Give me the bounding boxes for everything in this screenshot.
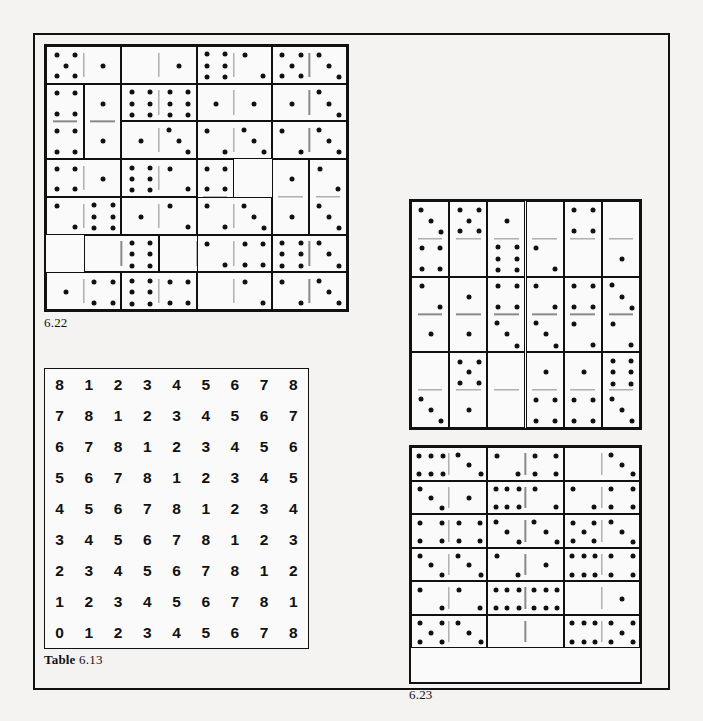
pip [455, 553, 460, 558]
domino-0-0[interactable] [487, 615, 563, 649]
pip [440, 506, 445, 511]
pip [92, 279, 97, 284]
domino-3-3[interactable] [411, 548, 487, 582]
domino-5-3[interactable] [411, 615, 487, 649]
domino-0-1[interactable] [564, 581, 640, 615]
pip [581, 370, 586, 375]
domino-1-4[interactable] [526, 352, 564, 428]
domino-6-3[interactable] [411, 447, 487, 481]
domino-0-3[interactable] [411, 352, 449, 428]
domino-2-1[interactable] [487, 548, 563, 582]
domino-0-1[interactable] [602, 201, 640, 277]
domino-1-1[interactable] [197, 84, 272, 122]
pip [609, 572, 614, 577]
domino-2-4[interactable] [487, 447, 563, 481]
domino-6-4[interactable] [564, 548, 640, 582]
domino-1-3[interactable] [121, 121, 196, 159]
domino-1-4[interactable] [46, 272, 121, 310]
domino-6-2[interactable] [121, 159, 196, 197]
domino-4-2[interactable] [564, 277, 602, 353]
pip [591, 229, 596, 234]
domino-2-1[interactable] [411, 277, 449, 353]
domino-0-3[interactable] [564, 447, 640, 481]
domino-2-3[interactable] [309, 159, 347, 234]
domino-divider [525, 487, 526, 508]
domino-half-4 [529, 451, 562, 480]
domino-grid-6-23[interactable] [409, 445, 642, 684]
pip [336, 301, 341, 306]
pip [554, 471, 559, 476]
domino-5-3[interactable] [564, 514, 640, 548]
domino-2-3[interactable] [197, 197, 272, 235]
domino-half-4 [50, 163, 83, 196]
domino-2-4[interactable] [564, 481, 640, 515]
domino-half-4 [567, 280, 600, 313]
domino-4-3[interactable] [487, 277, 525, 353]
domino-divider [449, 587, 450, 608]
domino-6-2[interactable] [197, 46, 272, 84]
domino-half-0 [567, 585, 600, 614]
domino-4-0[interactable] [564, 201, 602, 277]
domino-4-1[interactable] [46, 159, 121, 197]
domino-5-1[interactable] [449, 352, 487, 428]
domino-2-6[interactable] [46, 197, 121, 235]
domino-3-1[interactable] [411, 481, 487, 515]
domino-6-6[interactable] [487, 581, 563, 615]
domino-0-2[interactable] [526, 201, 564, 277]
pip [610, 321, 615, 326]
domino-5-1[interactable] [46, 46, 121, 84]
domino-6-6[interactable] [121, 84, 196, 122]
domino-1-2[interactable] [121, 197, 196, 235]
pip [148, 252, 153, 257]
pip [570, 639, 575, 644]
domino-3-3[interactable] [487, 514, 563, 548]
domino-half-1 [453, 394, 486, 427]
domino-5-0[interactable] [449, 201, 487, 277]
pip [223, 75, 228, 80]
domino-4-4[interactable] [411, 514, 487, 548]
table-cell-r0-c5: 5 [191, 369, 220, 400]
domino-half-3 [313, 200, 346, 233]
domino-0-0[interactable] [487, 352, 525, 428]
table-cell-r3-c0: 5 [45, 462, 74, 493]
domino-0-6[interactable] [84, 235, 159, 273]
domino-half-1 [275, 163, 308, 196]
domino-divider [570, 390, 595, 391]
domino-6-3[interactable] [602, 352, 640, 428]
domino-4-4[interactable] [46, 84, 84, 159]
domino-3-4[interactable] [411, 201, 449, 277]
table-cell-r4-c8: 4 [279, 493, 308, 524]
domino-1-1[interactable] [272, 159, 310, 234]
pip [280, 263, 285, 268]
domino-grid-6-23-top[interactable] [409, 199, 642, 430]
domino-2-3[interactable] [526, 277, 564, 353]
pip [493, 606, 498, 611]
domino-6-5[interactable] [564, 615, 640, 649]
pip [440, 453, 445, 458]
domino-half-1 [87, 87, 120, 120]
domino-5-3[interactable] [272, 46, 347, 84]
domino-0-2[interactable] [197, 272, 272, 310]
domino-3-2[interactable] [602, 277, 640, 353]
domino-2-3[interactable] [272, 121, 347, 159]
pip [139, 139, 144, 144]
domino-2-3[interactable] [272, 272, 347, 310]
pip [167, 204, 172, 209]
domino-6-2[interactable] [487, 481, 563, 515]
domino-6-4[interactable] [121, 272, 196, 310]
domino-1-3[interactable] [272, 84, 347, 122]
domino-grid-6-22[interactable] [44, 44, 349, 312]
pip [185, 187, 190, 192]
pip [493, 505, 498, 510]
domino-1-4[interactable] [564, 352, 602, 428]
domino-2-4[interactable] [197, 235, 272, 273]
domino-1-1[interactable] [84, 84, 122, 159]
domino-6-3[interactable] [272, 235, 347, 273]
domino-2-3[interactable] [197, 121, 272, 159]
pip [54, 204, 59, 209]
pip [327, 214, 332, 219]
domino-1-1[interactable] [449, 277, 487, 353]
domino-0-1[interactable] [121, 46, 196, 84]
domino-1-6[interactable] [487, 201, 525, 277]
domino-2-2[interactable] [411, 581, 487, 615]
